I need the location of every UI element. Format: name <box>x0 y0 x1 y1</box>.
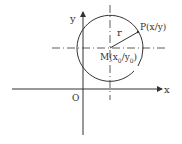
y-axis-label: y <box>69 13 76 24</box>
point-p-marker <box>137 31 139 33</box>
point-p-label: P(x/y) <box>140 22 166 32</box>
x-axis-label: x <box>164 84 170 95</box>
circle-coordinate-diagram: y x O r P(x/y) M(x0/y0) <box>0 0 182 144</box>
radius-label: r <box>117 27 122 38</box>
origin-label: O <box>72 93 79 103</box>
center-m-label: M(x0/y0) <box>100 52 137 64</box>
radius-line <box>110 32 138 48</box>
